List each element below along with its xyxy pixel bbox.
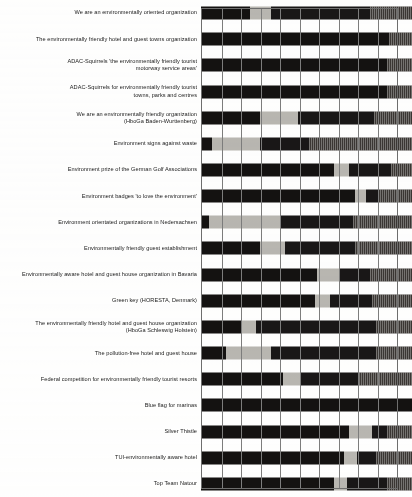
bar-segment: [298, 111, 374, 124]
stacked-bar: [201, 451, 412, 464]
chart-row: ADAC-Squirrels 'the environmentally frie…: [0, 52, 412, 78]
bar-plot-cell: [201, 209, 412, 235]
bar-segment: [260, 111, 298, 124]
chart-row: We are an environmentally oriented organ…: [0, 0, 412, 26]
bar-segment: [201, 477, 334, 490]
bar-segment: [370, 7, 412, 20]
stacked-bar: [201, 399, 412, 412]
stacked-bar: [201, 320, 412, 333]
stacked-bar: [201, 242, 412, 255]
stacked-bar: [201, 294, 412, 307]
stacked-bar: [201, 164, 412, 177]
bar-plot-cell: [201, 0, 412, 26]
stacked-bar: [201, 7, 412, 20]
bar-segment: [281, 216, 353, 229]
stacked-bar: [201, 477, 412, 490]
bar-segment: [201, 33, 389, 46]
category-label: TUI-environmentally aware hotel: [0, 454, 201, 461]
bar-plot-cell: [201, 183, 412, 209]
category-label: Top Team Natour: [0, 480, 201, 487]
category-label: Environmentally aware hotel and guest ho…: [0, 271, 201, 278]
category-label: Federal competition for environmentally …: [0, 376, 201, 383]
category-label: The environmentally friendly hotel and g…: [0, 36, 201, 43]
bar-plot-cell: [201, 235, 412, 261]
bar-segment: [357, 451, 376, 464]
stacked-bar: [201, 373, 412, 386]
bar-segment: [201, 373, 283, 386]
bar-segment: [260, 242, 285, 255]
chart-row: Environment badges 'to love the environm…: [0, 183, 412, 209]
chart-row: The environmentally friendly hotel and g…: [0, 314, 412, 340]
category-label: ADAC-Squirrels 'the environmentally frie…: [0, 58, 201, 72]
category-label: Environment prize of the German Golf Ass…: [0, 166, 201, 173]
bar-plot-cell: [201, 314, 412, 340]
category-label: We are an environmentally oriented organ…: [0, 9, 201, 16]
bar-segment: [201, 190, 355, 203]
bar-segment: [201, 268, 317, 281]
bar-plot-cell: [201, 366, 412, 392]
bar-plot-cell: [201, 340, 412, 366]
bar-segment: [260, 137, 309, 150]
chart-row: Environment orientated organizations in …: [0, 209, 412, 235]
bar-plot-cell: [201, 471, 412, 497]
bar-plot-cell: [201, 288, 412, 314]
bar-segment: [387, 59, 412, 72]
bar-segment: [349, 164, 391, 177]
chart-row: Silver Thistle: [0, 419, 412, 445]
bar-segment: [389, 33, 412, 46]
bar-segment: [317, 268, 340, 281]
bar-segment: [378, 190, 412, 203]
stacked-bar: [201, 425, 412, 438]
bar-plot-cell: [201, 392, 412, 418]
bar-segment: [271, 7, 370, 20]
bar-segment: [387, 425, 412, 438]
bar-segment: [387, 85, 412, 98]
bar-segment: [330, 294, 372, 307]
category-label: Green key (HORESTA, Denmark): [0, 297, 201, 304]
chart-row: Environment signs against waste: [0, 131, 412, 157]
bar-segment: [300, 373, 359, 386]
bar-segment: [353, 216, 412, 229]
chart-row: Environmentally aware hotel and guest ho…: [0, 262, 412, 288]
bar-segment: [201, 59, 387, 72]
bar-segment: [366, 190, 379, 203]
bar-segment: [226, 347, 270, 360]
stacked-bar: [201, 347, 412, 360]
bar-segment: [201, 451, 344, 464]
bar-plot-cell: [201, 131, 412, 157]
chart-row: Blue flag for marinas: [0, 392, 412, 418]
bar-segment: [347, 477, 387, 490]
stacked-bar: [201, 59, 412, 72]
bar-plot-cell: [201, 419, 412, 445]
bar-segment: [355, 242, 412, 255]
bar-segment: [241, 320, 256, 333]
chart-row: The pollution-free hotel and guest house: [0, 340, 412, 366]
bar-plot-cell: [201, 105, 412, 131]
chart-row: Top Team Natour: [0, 471, 412, 497]
category-label: Environment signs against waste: [0, 140, 201, 147]
stacked-bar: [201, 268, 412, 281]
bar-plot-cell: [201, 52, 412, 78]
bar-plot-cell: [201, 26, 412, 52]
bar-segment: [201, 347, 226, 360]
bar-segment: [201, 85, 387, 98]
category-label: ADAC-Squirrels for environmentally frien…: [0, 84, 201, 98]
chart-rows: We are an environmentally oriented organ…: [0, 0, 412, 497]
bar-plot-cell: [201, 262, 412, 288]
category-label: Environmentally friendly guest establish…: [0, 245, 201, 252]
bar-segment: [256, 320, 376, 333]
bar-segment: [201, 320, 241, 333]
bar-segment: [201, 425, 349, 438]
bar-segment: [201, 7, 250, 20]
bar-segment: [201, 111, 260, 124]
category-label: We are an environmentally friendly organ…: [0, 111, 201, 125]
bar-segment: [376, 320, 412, 333]
bar-segment: [334, 477, 347, 490]
chart-row: ADAC-Squirrels for environmentally frien…: [0, 78, 412, 104]
bar-segment: [285, 242, 355, 255]
bar-segment: [376, 347, 412, 360]
bar-segment: [250, 7, 271, 20]
stacked-bar: [201, 190, 412, 203]
stacked-bar: [201, 216, 412, 229]
chart-row: Federal competition for environmentally …: [0, 366, 412, 392]
